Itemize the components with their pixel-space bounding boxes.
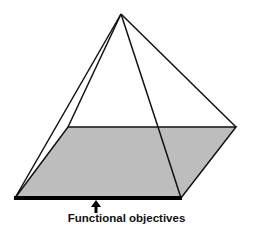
edge-back-left	[68, 14, 121, 127]
functional-objectives-label: Functional objectives	[0, 212, 253, 224]
pyramid-base	[15, 127, 236, 198]
pyramid-diagram	[0, 0, 253, 242]
edge-back-right	[121, 14, 236, 127]
edge-front-right	[121, 14, 158, 127]
